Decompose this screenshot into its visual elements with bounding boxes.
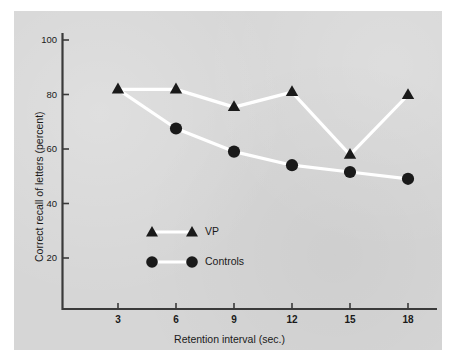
legend-marker-circle-icon <box>186 256 198 268</box>
series-markers-vp <box>112 83 414 159</box>
data-point-vp-18 <box>402 88 414 99</box>
legend-label-controls: Controls <box>205 255 244 267</box>
x-tick-label: 9 <box>219 314 249 325</box>
data-point-vp-12 <box>286 85 298 96</box>
x-tick-label: 3 <box>103 314 133 325</box>
x-tick-label: 15 <box>335 314 365 325</box>
y-tick-label: 100 <box>27 34 57 45</box>
legend-marker-circle-icon <box>146 256 158 268</box>
chart-plot-svg <box>0 0 459 364</box>
y-axis-title: Correct recall of letters (percent) <box>33 111 45 262</box>
series-line-controls <box>118 89 408 178</box>
y-tick-label: 80 <box>27 89 57 100</box>
data-point-controls-6 <box>170 122 182 134</box>
series-line-vp <box>118 89 408 154</box>
x-tick-label: 18 <box>393 314 423 325</box>
series-connector-lines <box>118 89 408 178</box>
data-point-controls-15 <box>344 166 356 178</box>
data-point-controls-9 <box>228 146 240 158</box>
x-tick-label: 12 <box>277 314 307 325</box>
legend-label-vp: VP <box>205 225 219 237</box>
axis-lines <box>63 33 438 310</box>
x-axis-title: Retention interval (sec.) <box>0 333 459 345</box>
x-tick-label: 6 <box>161 314 191 325</box>
legend-swatches <box>146 226 198 268</box>
data-point-controls-12 <box>286 159 298 171</box>
figure-container: 100 80 60 40 20 3 6 9 12 15 18 Retention… <box>0 0 459 364</box>
data-point-controls-18 <box>402 173 414 185</box>
